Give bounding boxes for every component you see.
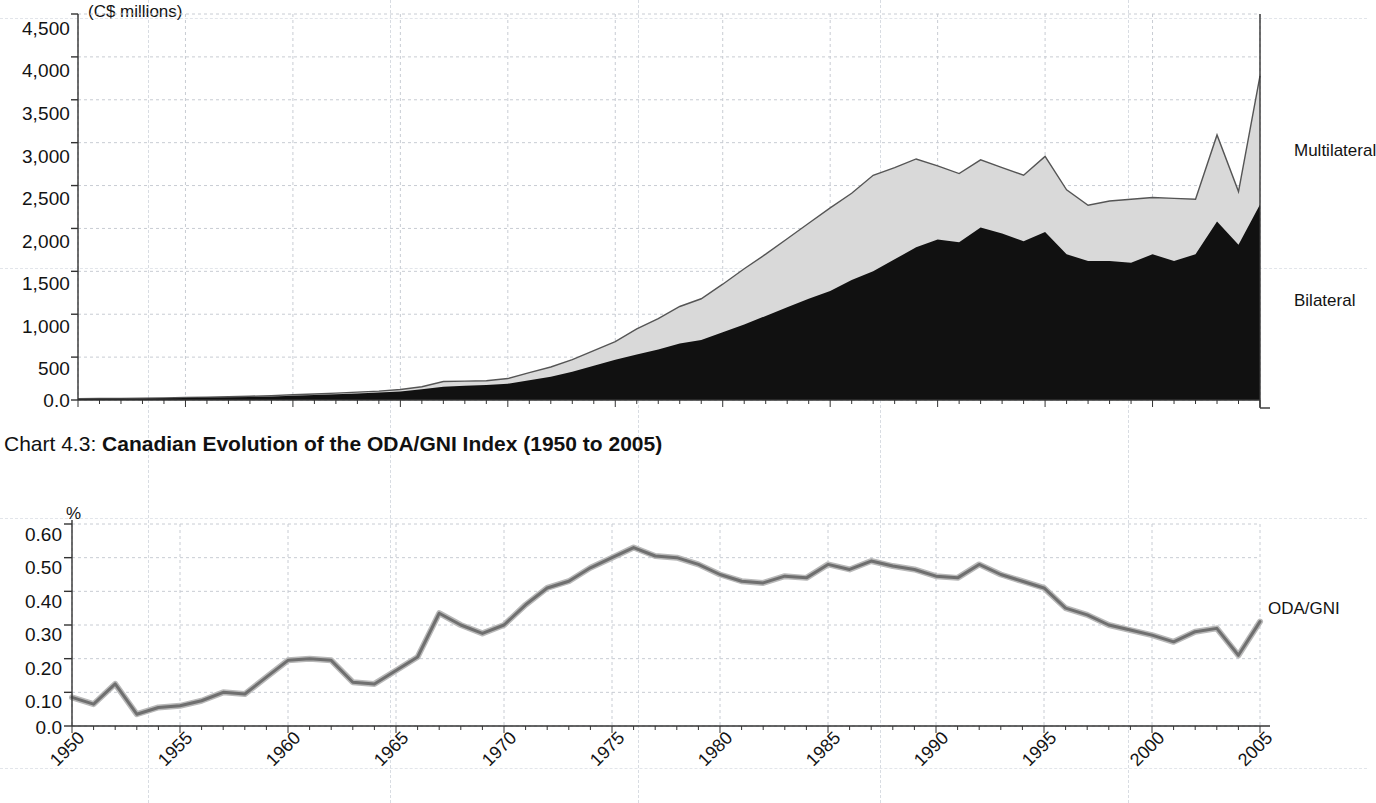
chart2-ytick-0: 0.0 — [0, 717, 62, 739]
chart2-svg — [72, 524, 1260, 726]
chart2-ytick-010: 0.10 — [0, 691, 62, 713]
chart2-plot-area — [72, 524, 1260, 726]
chart2-title: Chart 4.3: Canadian Evolution of the ODA… — [4, 432, 662, 456]
chart2-unit-label: % — [66, 504, 81, 524]
chart2-title-main: Canadian Evolution of the ODA/GNI Index … — [102, 432, 662, 455]
chart1-ytick-4500: 4,500 — [0, 18, 70, 40]
legend-label-oda-gni: ODA/GNI — [1268, 599, 1340, 619]
chart1-ytick-500: 500 — [0, 358, 70, 380]
chart2-ytick-060: 0.60 — [0, 524, 62, 546]
chart2-title-prefix: Chart 4.3: — [4, 432, 102, 455]
chart1-ytick-4000: 4,000 — [0, 60, 70, 82]
chart2-xaxis-labels: 1950 1955 1960 1965 1970 1975 1980 1985 … — [0, 742, 1367, 803]
chart2-ytick-050: 0.50 — [0, 557, 62, 579]
chart1-ytick-2500: 2,500 — [0, 188, 70, 210]
chart1-ytick-1500: 1,500 — [0, 273, 70, 295]
chart1-ytick-3000: 3,000 — [0, 146, 70, 168]
chart1-plot-area — [78, 14, 1260, 400]
chart1-svg — [78, 14, 1260, 400]
chart-oda-volumes: (C$ millions) 4,500 4,000 3,500 3,000 2,… — [0, 0, 1367, 418]
chart2-ytick-020: 0.20 — [0, 658, 62, 680]
legend-label-multilateral: Multilateral — [1294, 141, 1376, 161]
chart2-ytick-040: 0.40 — [0, 591, 62, 613]
chart2-ytick-030: 0.30 — [0, 624, 62, 646]
chart1-ytick-3500: 3,500 — [0, 103, 70, 125]
chart1-ytick-2000: 2,000 — [0, 231, 70, 253]
chart1-ytick-0: 0.0 — [0, 390, 70, 412]
legend-label-bilateral: Bilateral — [1294, 291, 1355, 311]
chart1-ytick-1000: 1,000 — [0, 316, 70, 338]
